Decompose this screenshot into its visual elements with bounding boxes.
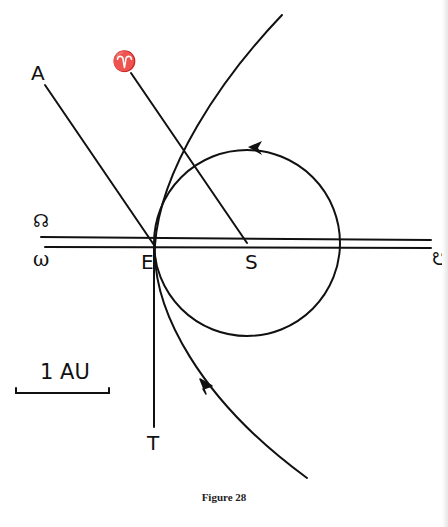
line-of-nodes-upper xyxy=(41,237,431,240)
line-to-aries xyxy=(131,73,247,243)
line-to-A xyxy=(45,85,154,245)
label-ascending-node: ☊ xyxy=(33,212,49,230)
label-E: E xyxy=(141,252,154,272)
au-scale-bar xyxy=(16,388,109,393)
page-edge-shadow xyxy=(442,0,448,527)
label-omega: ω xyxy=(33,249,49,269)
orbit-direction-arrow-icon xyxy=(248,141,262,155)
label-A: A xyxy=(31,63,45,83)
orbit-diagram xyxy=(0,0,448,527)
figure-caption: Figure 28 xyxy=(0,491,448,503)
label-T: T xyxy=(147,433,159,453)
scale-label: 1 AU xyxy=(40,362,90,383)
line-of-nodes-lower xyxy=(45,247,431,248)
label-aries: ♈ xyxy=(112,51,137,71)
label-S: S xyxy=(245,252,258,272)
